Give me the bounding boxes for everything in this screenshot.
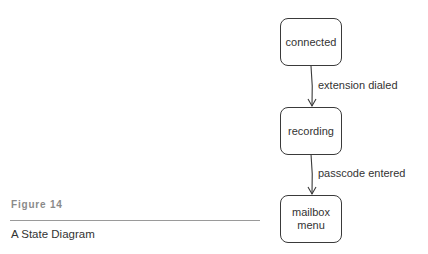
- arrow-recording-to-mailbox: [311, 154, 312, 194]
- state-mailbox-menu: mailbox menu: [280, 195, 342, 243]
- state-label: mailbox menu: [292, 206, 330, 232]
- transition-arrows: [0, 0, 428, 254]
- state-label: recording: [288, 125, 334, 138]
- state-recording: recording: [280, 107, 342, 155]
- caption-divider: [10, 220, 260, 221]
- figure-number: Figure 14: [11, 199, 63, 210]
- figure-title: A State Diagram: [11, 228, 95, 240]
- state-label: connected: [286, 36, 337, 49]
- state-connected: connected: [280, 18, 342, 66]
- transition-label-extension-dialed: extension dialed: [318, 79, 398, 91]
- arrow-connected-to-recording: [311, 66, 312, 106]
- transition-label-passcode-entered: passcode entered: [318, 167, 405, 179]
